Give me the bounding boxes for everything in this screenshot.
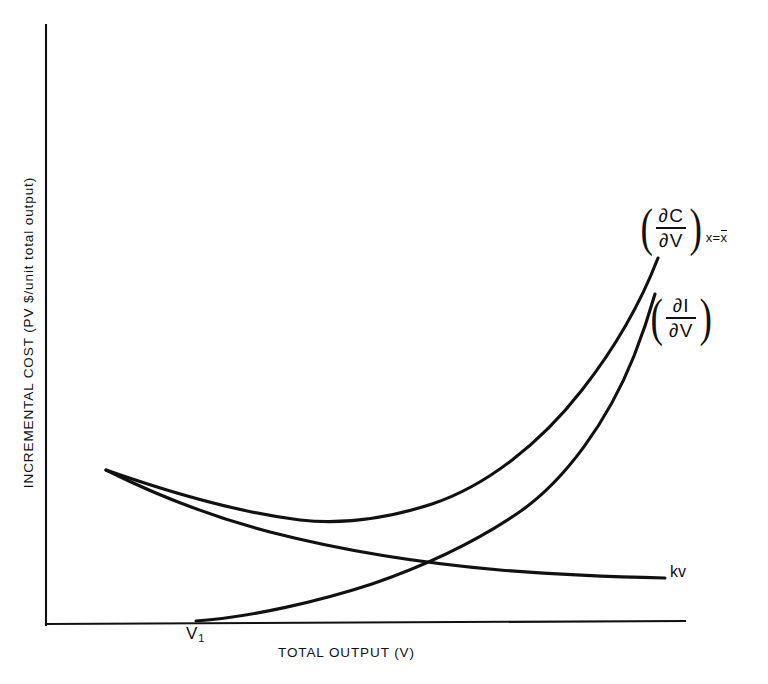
right-paren-glyph: ) (700, 297, 712, 340)
partial-derivative-fraction: ∂C ∂V (655, 205, 687, 251)
right-paren-glyph: ) (690, 207, 702, 250)
left-paren-glyph: ( (650, 297, 662, 340)
v1-subscript: 1 (197, 632, 204, 644)
v1-symbol: V (186, 624, 197, 643)
fraction-bar (656, 227, 686, 229)
marginal-investment-annotation: ( ∂I ∂V ) (648, 295, 715, 341)
fraction-bar (666, 317, 696, 319)
subscript-prefix: x= (706, 230, 721, 245)
evaluation-subscript: x=x (705, 230, 728, 251)
partial-derivative-fraction: ∂I ∂V (665, 295, 697, 341)
marginal-cost-annotation: ( ∂C ∂V ) x=x (638, 205, 727, 251)
kv-curve-label: kv (670, 563, 686, 581)
left-paren-glyph: ( (640, 207, 652, 250)
fraction-numerator: ∂I (673, 295, 690, 316)
x-axis-title: TOTAL OUTPUT (V) (278, 645, 415, 660)
x-axis-spine (46, 621, 685, 624)
curve-marginal-investment (196, 294, 655, 621)
fraction-denominator: ∂V (669, 320, 693, 341)
v1-label: V1 (186, 624, 204, 644)
curve-kv (106, 470, 665, 578)
axis-lines (46, 25, 685, 625)
incremental-cost-figure: INCREMENTAL COST (PV $/unit total output… (0, 0, 768, 684)
subscript-barred-variable: x (721, 230, 728, 245)
y-axis-title: INCREMENTAL COST (PV $/unit total output… (21, 123, 36, 543)
fraction-denominator: ∂V (659, 230, 683, 251)
curve-marginal-cost (106, 258, 658, 522)
fraction-numerator: ∂C (659, 205, 685, 226)
